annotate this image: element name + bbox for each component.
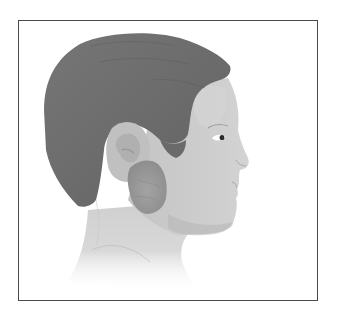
eye-pupil [220, 135, 225, 140]
head-profile-illustration [0, 0, 338, 321]
